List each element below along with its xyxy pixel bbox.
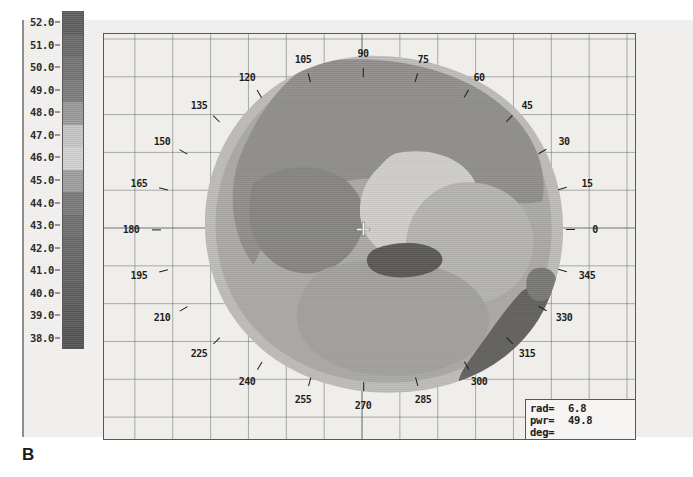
readout-row: deg= [530,426,635,438]
meridian-label-345: 345 [579,269,596,280]
colour-scale-tick [55,22,60,23]
colour-scale-tick [55,247,60,248]
colour-scale-label: 42.0 [30,242,54,254]
meridian-label-270: 270 [355,400,372,411]
colour-scale-segment [63,170,83,193]
colour-scale-segment [63,57,83,80]
meridian-label-90: 90 [357,48,368,59]
meridian-label-120: 120 [239,71,256,82]
colour-scale-segment [63,125,83,148]
meridian-label-45: 45 [522,99,533,110]
colour-scale-tick [55,337,60,338]
colour-scale-segment [63,305,83,328]
colour-scale: 52.051.050.049.048.047.046.045.044.043.0… [10,11,85,351]
meridian-label-165: 165 [131,178,148,189]
colour-scale-segment [63,327,83,349]
cornea-colour-regions [104,34,635,439]
colour-scale-label: 52.0 [30,16,54,28]
colour-scale-label: 41.0 [30,264,54,276]
colour-scale-segment [63,215,83,238]
meridian-label-330: 330 [556,312,573,323]
colour-scale-segment [63,237,83,260]
meridian-tick-90 [362,68,363,77]
crosshair-vertical [363,223,365,236]
colour-scale-label: 48.0 [30,106,54,118]
meridian-label-285: 285 [415,394,432,405]
readout-label: deg= [530,426,568,438]
colour-scale-tick [55,225,60,226]
colour-scale-segment [63,147,83,170]
meridian-label-255: 255 [295,394,312,405]
panel-letter: B [22,445,34,465]
meridian-label-225: 225 [191,348,208,359]
map-centre-crosshair [357,223,370,236]
topography-plot[interactable]: 0153045607590105120135150165180195210225… [103,33,636,440]
readout-row: pwr=49.8 [530,414,635,426]
colour-scale-segment [63,192,83,215]
colour-scale-label: 43.0 [30,219,54,231]
meridian-label-135: 135 [191,99,208,110]
curvature-colour-map [104,34,635,439]
readout-value: 49.8 [568,414,593,426]
meridian-tick-0 [566,229,575,230]
measurement-readout: rad=6.8pwr=49.8deg= [525,399,635,439]
colour-scale-segment [63,282,83,305]
colour-scale-segment [63,260,83,283]
colour-scale-label: 45.0 [30,174,54,186]
colour-scale-label: 44.0 [30,197,54,209]
meridian-label-195: 195 [131,269,148,280]
colour-scale-segment [63,12,83,35]
colour-scale-bar [62,11,84,349]
meridian-tick-270 [362,382,363,391]
colour-scale-tick [55,180,60,181]
meridian-label-150: 150 [154,136,171,147]
meridian-label-240: 240 [239,376,256,387]
meridian-label-0: 0 [592,224,598,235]
colour-scale-segment [63,80,83,103]
meridian-label-75: 75 [418,53,429,64]
colour-scale-tick [55,44,60,45]
meridian-label-105: 105 [295,53,312,64]
colour-scale-label: 46.0 [30,151,54,163]
readout-row: rad=6.8 [530,402,635,414]
meridian-tick-180 [152,229,161,230]
colour-scale-tick [55,157,60,158]
colour-scale-label: 51.0 [30,39,54,51]
colour-scale-label: 47.0 [30,129,54,141]
meridian-label-15: 15 [582,178,593,189]
colour-scale-tick [55,67,60,68]
readout-label: rad= [530,402,568,414]
colour-scale-labels: 52.051.050.049.048.047.046.045.044.043.0… [10,11,54,351]
colour-scale-label: 49.0 [30,84,54,96]
meridian-label-60: 60 [473,71,484,82]
readout-value: 6.8 [568,402,586,414]
meridian-label-210: 210 [154,312,171,323]
colour-scale-tick [55,134,60,135]
colour-scale-label: 40.0 [30,287,54,299]
colour-scale-label: 50.0 [30,61,54,73]
meridian-label-180: 180 [123,224,140,235]
meridian-label-30: 30 [558,136,569,147]
colour-scale-tick [55,89,60,90]
colour-scale-segment [63,35,83,58]
colour-scale-tick [55,270,60,271]
colour-scale-segment [63,102,83,125]
meridian-label-315: 315 [519,348,536,359]
colour-scale-tick [55,292,60,293]
colour-scale-label: 38.0 [30,332,54,344]
meridian-label-300: 300 [471,376,488,387]
figure-panel: 52.051.050.049.048.047.046.045.044.043.0… [0,0,693,477]
colour-scale-label: 39.0 [30,309,54,321]
colour-scale-tick [55,202,60,203]
colour-scale-tick [55,315,60,316]
colour-scale-tick [55,112,60,113]
readout-label: pwr= [530,414,568,426]
